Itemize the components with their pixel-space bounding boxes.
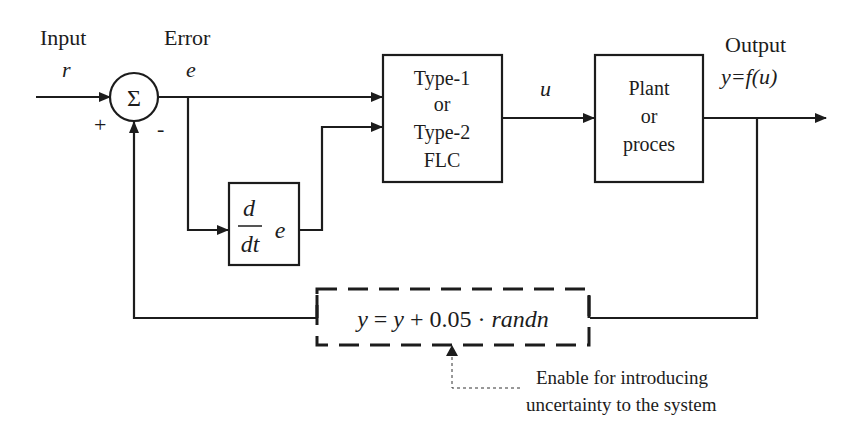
annotation-line-2: uncertainty to the system (526, 394, 717, 415)
controller-line-1: Type-1 (414, 67, 470, 90)
plant-line-3: proces (623, 133, 675, 156)
plant-block: Plant or proces (595, 55, 703, 182)
output-label: Output (725, 32, 786, 57)
input-label: Input (40, 25, 86, 50)
controller-line-3: Type-2 (414, 121, 470, 144)
block-diagram: Σ d dt e Type-1 or Type-2 FLC Plant or p… (0, 0, 849, 438)
controller-line-2: or (434, 93, 451, 115)
plant-line-1: Plant (628, 77, 670, 99)
minus-sign: - (157, 116, 164, 141)
derivative-branch-line (188, 97, 228, 230)
annotation-line-1: Enable for introducing (536, 367, 709, 388)
input-symbol: r (62, 57, 71, 82)
error-symbol: e (186, 57, 196, 82)
control-symbol: u (540, 76, 551, 101)
derivative-numerator: d (243, 195, 256, 221)
derivative-variable: e (275, 217, 286, 243)
derivative-block: d dt e (229, 183, 299, 265)
output-equation: y=f(u) (719, 64, 777, 89)
sigma-symbol: Σ (127, 85, 141, 111)
plus-sign: + (94, 112, 106, 137)
derivative-output-line (299, 127, 382, 230)
noise-block: y = y + 0.05 · randn (317, 289, 589, 345)
error-label: Error (164, 25, 211, 50)
controller-line-4: FLC (424, 149, 461, 171)
annotation-pointer (452, 352, 520, 388)
noise-equation: y = y + 0.05 · randn (355, 306, 549, 332)
flc-controller-block: Type-1 or Type-2 FLC (383, 55, 502, 182)
derivative-denominator: dt (241, 231, 261, 257)
summing-junction: Σ (110, 73, 158, 121)
annotation-arrowhead (446, 345, 458, 356)
plant-line-2: or (641, 105, 658, 127)
